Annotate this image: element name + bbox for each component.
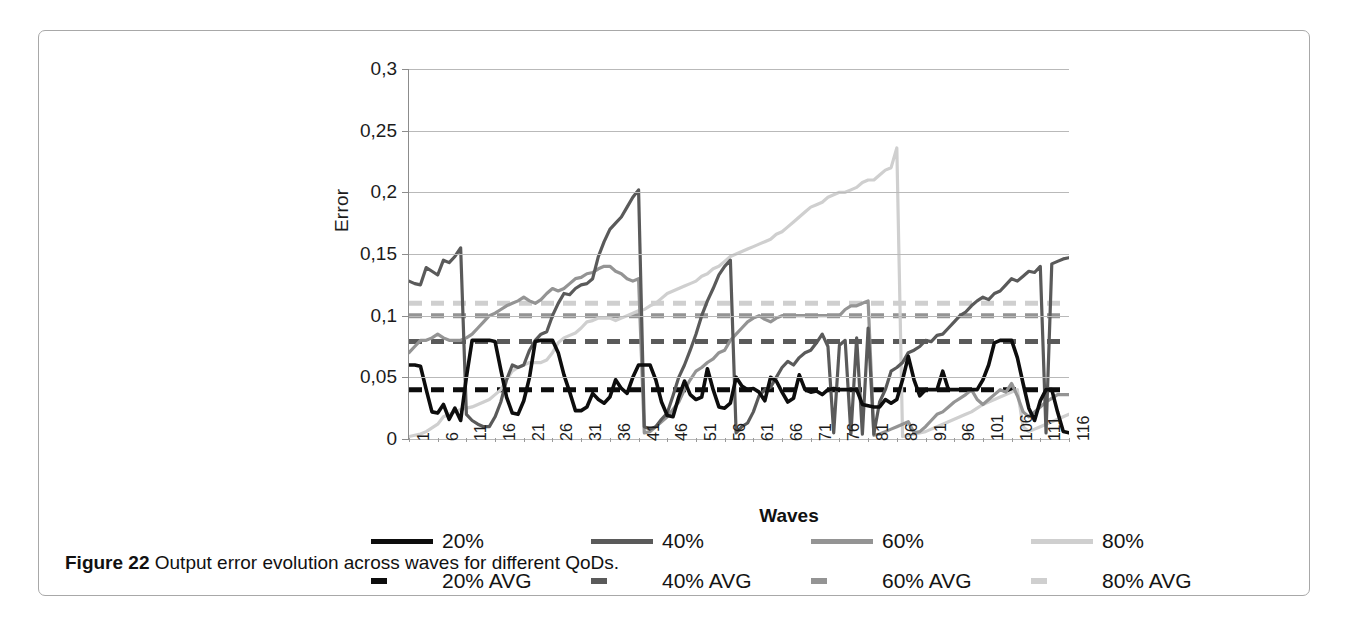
legend-swatch-icon <box>1031 539 1093 544</box>
legend-swatch-icon <box>371 539 433 544</box>
x-tick-label: 66 <box>788 423 806 441</box>
x-tick-label: 1 <box>415 432 433 441</box>
y-tick-mark <box>402 69 409 70</box>
x-tick-label: 86 <box>903 423 921 441</box>
legend-item-80[interactable]: 80% <box>1031 529 1251 553</box>
legend-label: 20% <box>442 529 484 553</box>
x-tick-label: 71 <box>817 423 835 441</box>
figure-caption-text: Output error evolution across waves for … <box>149 552 619 573</box>
y-tick-label: 0 <box>386 428 397 450</box>
x-tick-mark <box>438 438 439 442</box>
x-tick-label: 31 <box>587 423 605 441</box>
x-tick-label: 76 <box>845 423 863 441</box>
x-tick-label: 51 <box>702 423 720 441</box>
x-tick-label: 41 <box>645 423 663 441</box>
x-tick-label: 11 <box>472 424 490 441</box>
x-tick-label: 21 <box>530 423 548 441</box>
series-line-80pct <box>409 148 1069 437</box>
y-tick-label: 0,05 <box>360 366 397 388</box>
gridline <box>409 192 1069 193</box>
legend-label: 40% <box>662 529 704 553</box>
gridline <box>409 377 1069 378</box>
x-tick-mark <box>954 438 955 442</box>
x-tick-mark <box>725 438 726 442</box>
plot-canvas: 00,050,10,150,20,250,3 <box>409 69 1069 439</box>
legend-swatch-icon <box>591 539 653 544</box>
x-axis-title: Waves <box>279 505 1299 527</box>
y-tick-mark <box>402 377 409 378</box>
figure-caption-label: Figure 22 <box>65 552 149 573</box>
x-tick-label: 16 <box>501 423 519 441</box>
legend-item-60[interactable]: 60% <box>811 529 1031 553</box>
x-tick-mark <box>1040 438 1041 442</box>
legend-item-20[interactable]: 20% <box>371 529 591 553</box>
x-tick-label: 91 <box>932 423 950 441</box>
x-tick-mark <box>753 438 754 442</box>
y-tick-label: 0,1 <box>371 305 397 327</box>
y-tick-mark <box>402 192 409 193</box>
y-tick-mark <box>402 131 409 132</box>
legend-swatch-icon <box>591 578 653 584</box>
x-tick-label: 6 <box>444 432 462 441</box>
x-tick-label: 81 <box>874 423 892 441</box>
x-tick-mark <box>811 438 812 442</box>
x-tick-mark <box>868 438 869 442</box>
x-tick-mark <box>409 438 410 442</box>
x-tick-mark <box>983 438 984 442</box>
x-tick-label: 116 <box>1075 415 1093 441</box>
x-tick-label: 36 <box>616 423 634 441</box>
x-tick-mark <box>639 438 640 442</box>
x-tick-label: 106 <box>1018 414 1036 441</box>
x-tick-mark <box>1012 438 1013 442</box>
x-tick-mark <box>667 438 668 442</box>
legend-swatch-icon <box>371 578 433 584</box>
gridline <box>409 254 1069 255</box>
series-line-20pct <box>409 340 1069 433</box>
y-tick-label: 0,3 <box>371 58 397 80</box>
x-tick-labels: 1611162126313641465156616671768186919610… <box>409 441 1069 503</box>
figure-caption: Figure 22 Output error evolution across … <box>65 552 1265 574</box>
y-tick-label: 0,25 <box>360 120 397 142</box>
x-tick-label: 96 <box>960 423 978 441</box>
x-tick-label: 61 <box>759 423 777 441</box>
legend-label: 80% <box>1102 529 1144 553</box>
x-tick-label: 111 <box>1046 417 1064 441</box>
gridline <box>409 69 1069 70</box>
x-tick-label: 26 <box>558 423 576 441</box>
plot-wrap: 00,050,10,150,20,250,3 16111621263136414… <box>279 37 1299 457</box>
x-tick-mark <box>495 438 496 442</box>
x-tick-mark <box>552 438 553 442</box>
x-tick-mark <box>524 438 525 442</box>
legend-swatch-icon <box>811 578 873 584</box>
legend-swatch-icon <box>811 539 873 544</box>
chart-area: Error 00,050,10,150,20,250,3 16111621263… <box>279 37 1299 532</box>
x-tick-mark <box>610 438 611 442</box>
x-tick-mark <box>839 438 840 442</box>
y-tick-label: 0,15 <box>360 243 397 265</box>
x-tick-label: 56 <box>731 423 749 441</box>
gridline <box>409 316 1069 317</box>
legend-label: 60% <box>882 529 924 553</box>
gridline <box>409 131 1069 132</box>
y-tick-mark <box>402 254 409 255</box>
x-tick-mark <box>466 438 467 442</box>
x-tick-mark <box>926 438 927 442</box>
legend-swatch-icon <box>1031 578 1093 584</box>
x-tick-label: 46 <box>673 423 691 441</box>
x-tick-mark <box>696 438 697 442</box>
y-tick-mark <box>402 316 409 317</box>
y-tick-mark <box>402 439 409 440</box>
x-tick-mark <box>782 438 783 442</box>
y-tick-label: 0,2 <box>371 181 397 203</box>
x-tick-mark <box>897 438 898 442</box>
legend-item-40[interactable]: 40% <box>591 529 811 553</box>
series-line-60pct <box>409 266 1069 435</box>
x-tick-mark <box>1069 438 1070 442</box>
x-tick-label: 101 <box>989 414 1007 441</box>
figure-frame: Error 00,050,10,150,20,250,3 16111621263… <box>38 30 1310 596</box>
x-tick-mark <box>581 438 582 442</box>
